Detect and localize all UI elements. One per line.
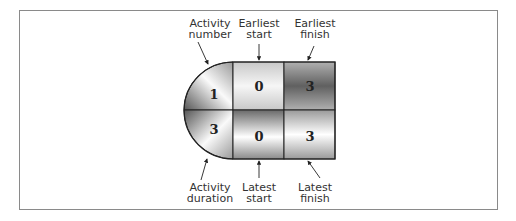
- value-latest-finish: 3: [305, 129, 314, 144]
- arrow-earliest-finish: [308, 46, 314, 60]
- arrow-activity-number: [198, 42, 208, 64]
- value-latest-start: 0: [254, 129, 263, 144]
- value-earliest-finish: 3: [305, 79, 314, 94]
- value-earliest-start: 0: [254, 79, 263, 94]
- activity-node-diagram: 1 3 0 3 0 3: [0, 0, 516, 221]
- value-activity-number: 1: [209, 87, 218, 102]
- arrow-latest-finish: [308, 161, 320, 178]
- arrow-activity-duration: [201, 159, 207, 180]
- value-activity-duration: 3: [209, 122, 218, 137]
- cell-activity-number: [184, 62, 233, 110]
